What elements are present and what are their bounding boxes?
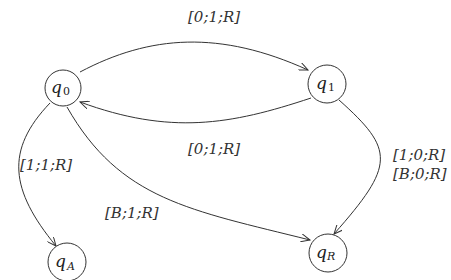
state-q0-sub: 0 [63, 85, 70, 98]
state-q1: q1 [308, 65, 346, 103]
edge-label-q1-qR-line2: [B;0;R] [393, 165, 447, 183]
state-qA-base: q [55, 251, 66, 271]
edge-q0-qA [19, 103, 56, 246]
edge-q1-qR [334, 100, 380, 234]
state-qA-sub: A [66, 260, 75, 273]
state-q1-base: q [316, 73, 327, 93]
edge-label-q1-qR-line1: [1;0;R] [393, 146, 445, 164]
state-qR: qR [309, 234, 347, 272]
edge-q1-q0 [80, 98, 311, 123]
edge-label-q0-qA: [1;1;R] [20, 156, 72, 174]
edge-q0-qR [67, 107, 310, 240]
state-q0: q0 [45, 70, 81, 106]
state-qA: qA [48, 243, 86, 280]
state-qR-sub: R [326, 250, 335, 263]
edge-label-q1-q0: [0;1;R] [188, 140, 240, 158]
state-q0-base: q [51, 77, 62, 97]
state-qR-base: q [316, 242, 327, 262]
state-q1-sub: 1 [328, 81, 335, 94]
state-diagram: [0;1;R] [0;1;R] [1;1;R] [B;1;R] [1;0;R] … [0, 0, 451, 280]
edge-q0-q1 [80, 42, 308, 72]
edge-label-q0-q1: [0;1;R] [188, 8, 240, 26]
edge-label-q0-qR: [B;1;R] [105, 204, 159, 222]
